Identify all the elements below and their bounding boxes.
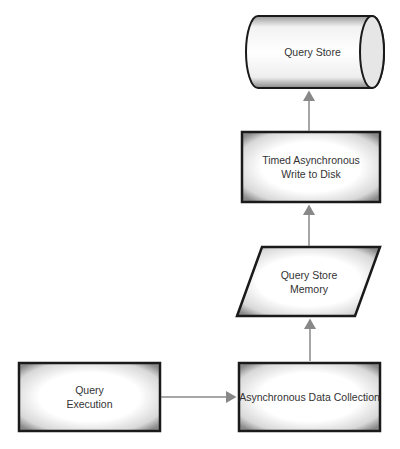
async-data-collection-label: Asynchronous Data Collection	[239, 363, 380, 431]
timed-write-label: Timed Asynchronous Write to Disk	[242, 132, 380, 202]
query-store-memory-label: Query Store Memory	[245, 247, 373, 316]
query-execution-label: Query Execution	[19, 363, 160, 431]
query-store-label: Query Store	[250, 16, 375, 88]
